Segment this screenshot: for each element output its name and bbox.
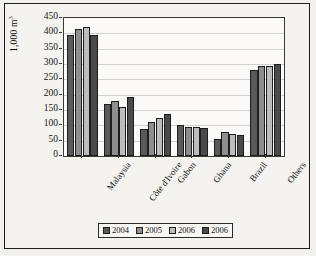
x-axis-tickmark [118,154,119,158]
x-axis-tickmark [265,154,266,158]
bar [274,64,281,156]
legend-swatch [169,227,176,234]
bar [148,122,155,156]
bar [83,27,90,156]
bar [75,29,82,156]
y-axis-tick-label: 400 [44,28,58,38]
y-axis-title-text: 1,000 m [9,19,19,52]
bar [266,66,273,156]
legend-label: 2004 [112,226,129,235]
bar [104,104,111,156]
y-axis-tick-label: 250 [44,74,58,84]
y-axis-tickmark [59,48,62,49]
plot-area [63,17,285,157]
legend-item: 2004 [103,226,129,235]
bar [229,134,236,156]
bar [90,35,97,156]
bar [67,35,74,156]
y-axis-tick-label: 300 [44,58,58,68]
x-axis-tickmark [191,154,192,158]
chart-legend: 2004200520062006 [98,223,233,238]
bar-group [104,18,135,156]
y-axis-tickmark [59,94,62,95]
y-axis-tickmark [59,109,62,110]
bar [140,129,147,156]
x-axis-tickmark [155,154,156,158]
y-axis-tick-label: 0 [53,150,58,160]
legend-item: 2006 [169,226,195,235]
bar-group [67,18,98,156]
legend-label: 2006 [178,226,195,235]
bar-group [214,18,245,156]
x-axis-tick-label: Ghana [211,160,233,185]
y-axis-tickmark [59,155,62,156]
y-axis-tick-label: 350 [44,43,58,53]
x-axis-tickmark [228,154,229,158]
legend-swatch [136,227,143,234]
y-axis-tick-label: 50 [49,135,59,145]
legend-label: 2006 [211,226,228,235]
bar-group [177,18,208,156]
legend-item: 2005 [136,226,162,235]
bar [185,127,192,156]
x-axis-tick-label: Brazil [247,160,268,183]
bar [200,128,207,156]
x-axis-tickmark [81,154,82,158]
y-axis-title: 1,000 m3 [7,16,19,52]
bar [193,127,200,156]
bar [221,132,228,156]
bar-group [250,18,281,156]
y-axis-tickmark [59,63,62,64]
x-axis-labels: MalaysiaCôte d'IvoireGabonGhanaBrazilOth… [63,158,285,216]
bar [237,135,244,156]
y-axis-tickmark [59,78,62,79]
y-axis-title-superscript: 3 [7,16,14,19]
y-axis-tick-label: 450 [44,12,58,22]
chart-figure: 1,000 m3 450400350300250200150100500 Mal… [0,0,316,256]
legend-item: 2006 [202,226,228,235]
bar [214,139,221,156]
bar [156,118,163,156]
legend-swatch [103,227,110,234]
bar [127,97,134,156]
bar [164,114,171,156]
y-axis-ticks: 450400350300250200150100500 [20,10,62,164]
y-axis-tickmark [59,32,62,33]
bar [250,70,257,156]
y-axis-tickmark [59,140,62,141]
y-axis-tick-label: 100 [44,120,58,130]
y-axis-tickmark [59,17,62,18]
bar [177,125,184,156]
legend-label: 2005 [145,226,162,235]
bar [119,107,126,156]
y-axis-tick-label: 200 [44,89,58,99]
bar-group [140,18,171,156]
y-axis-tickmark [59,124,62,125]
bar [258,66,265,156]
bars-layer [64,18,284,156]
y-axis-tick-label: 150 [44,104,58,114]
legend-swatch [202,227,209,234]
x-axis-tick-label: Malaysia [105,160,133,192]
bar [111,101,118,156]
